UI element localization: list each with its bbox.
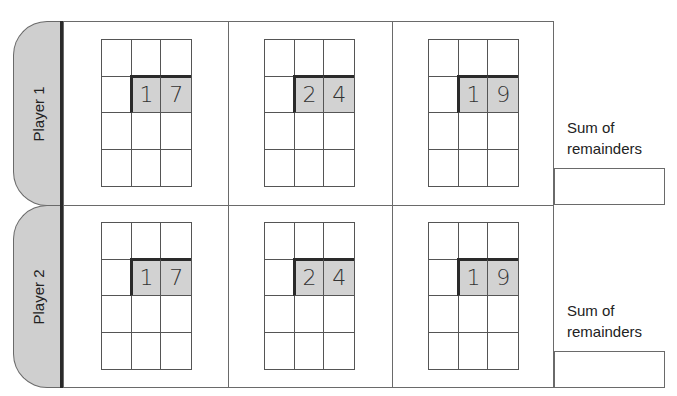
player-1-tab: Player 1 <box>13 21 61 206</box>
grid-cell[interactable] <box>132 296 162 333</box>
grid-cell[interactable] <box>429 40 459 77</box>
grid-cell[interactable] <box>132 40 162 77</box>
player-row-divider <box>63 205 554 206</box>
grid-cell[interactable] <box>295 333 325 370</box>
p2-sum-box[interactable] <box>554 351 665 388</box>
grid-cell[interactable] <box>324 223 354 260</box>
grid-cell[interactable] <box>161 113 191 150</box>
grid-cell[interactable] <box>324 150 354 187</box>
grid-cell[interactable] <box>459 333 489 370</box>
grid-cell[interactable] <box>459 223 489 260</box>
dividend-digit: 9 <box>488 75 518 114</box>
dividend-digit: 4 <box>324 75 354 114</box>
grid-cell[interactable] <box>324 113 354 150</box>
grid-cell[interactable] <box>265 296 295 333</box>
p1-division-grid-2: 24 <box>264 39 355 187</box>
p2-division-grid-2: 24 <box>264 222 355 370</box>
grid-cell[interactable] <box>102 260 132 297</box>
grid-cell[interactable] <box>429 223 459 260</box>
grid-cell[interactable] <box>324 296 354 333</box>
grid-cell[interactable] <box>488 333 518 370</box>
p2-division-grid-3: 19 <box>428 222 519 370</box>
grid-cell[interactable] <box>102 40 132 77</box>
dividend-digit: 1 <box>130 75 162 114</box>
grid-cell[interactable] <box>102 223 132 260</box>
grid-cell[interactable] <box>161 333 191 370</box>
grid-cell[interactable] <box>265 40 295 77</box>
grid-cell[interactable] <box>265 150 295 187</box>
grid-cell[interactable] <box>459 113 489 150</box>
grid-cell[interactable] <box>265 223 295 260</box>
grid-cell[interactable] <box>429 260 459 297</box>
p1-division-grid-3: 19 <box>428 39 519 187</box>
grid-cell[interactable] <box>429 333 459 370</box>
grid-cell[interactable] <box>265 77 295 114</box>
dividend-digit: 7 <box>161 75 191 114</box>
grid-cell[interactable] <box>429 296 459 333</box>
grid-cell[interactable] <box>295 113 325 150</box>
grid-cell[interactable] <box>295 223 325 260</box>
grid-cell[interactable] <box>488 40 518 77</box>
dividend-digit: 2 <box>293 258 325 297</box>
grid-cell[interactable] <box>132 333 162 370</box>
grid-cell[interactable] <box>132 113 162 150</box>
p2-division-grid-1: 17 <box>101 222 192 370</box>
grid-cell[interactable] <box>488 150 518 187</box>
dividend-digit: 1 <box>457 258 489 297</box>
grid-cell[interactable] <box>488 223 518 260</box>
grid-cell[interactable] <box>324 333 354 370</box>
grid-cell[interactable] <box>324 40 354 77</box>
grid-cell[interactable] <box>102 77 132 114</box>
grid-cell[interactable] <box>102 150 132 187</box>
grid-cell[interactable] <box>488 296 518 333</box>
grid-cell[interactable] <box>265 333 295 370</box>
dividend-digit: 9 <box>488 258 518 297</box>
grid-cell[interactable] <box>429 77 459 114</box>
grid-cell[interactable] <box>161 150 191 187</box>
grid-cell[interactable] <box>265 260 295 297</box>
grid-cell[interactable] <box>161 296 191 333</box>
grid-cell[interactable] <box>459 40 489 77</box>
dividend-digit: 4 <box>324 258 354 297</box>
grid-cell[interactable] <box>295 296 325 333</box>
player-1-label: Player 1 <box>29 86 46 141</box>
grid-cell[interactable] <box>459 296 489 333</box>
grid-cell[interactable] <box>161 223 191 260</box>
player-2-label: Player 2 <box>29 269 46 324</box>
grid-cell[interactable] <box>102 296 132 333</box>
grid-cell[interactable] <box>488 113 518 150</box>
grid-cell[interactable] <box>295 150 325 187</box>
grid-cell[interactable] <box>429 113 459 150</box>
grid-cell[interactable] <box>295 40 325 77</box>
grid-cell[interactable] <box>265 113 295 150</box>
player-2-tab: Player 2 <box>13 205 61 388</box>
dividend-digit: 7 <box>161 258 191 297</box>
grid-cell[interactable] <box>459 150 489 187</box>
dividend-digit: 2 <box>293 75 325 114</box>
grid-cell[interactable] <box>102 113 132 150</box>
grid-cell[interactable] <box>132 223 162 260</box>
column-divider-2 <box>392 21 393 388</box>
column-divider-1 <box>228 21 229 388</box>
grid-cell[interactable] <box>161 40 191 77</box>
p2-sum-label: Sum of remainders <box>567 300 662 342</box>
p1-sum-label: Sum of remainders <box>567 117 662 159</box>
dividend-digit: 1 <box>457 75 489 114</box>
p1-sum-box[interactable] <box>554 168 665 205</box>
grid-cell[interactable] <box>132 150 162 187</box>
dividend-digit: 1 <box>130 258 162 297</box>
grid-cell[interactable] <box>102 333 132 370</box>
p1-division-grid-1: 17 <box>101 39 192 187</box>
grid-cell[interactable] <box>429 150 459 187</box>
